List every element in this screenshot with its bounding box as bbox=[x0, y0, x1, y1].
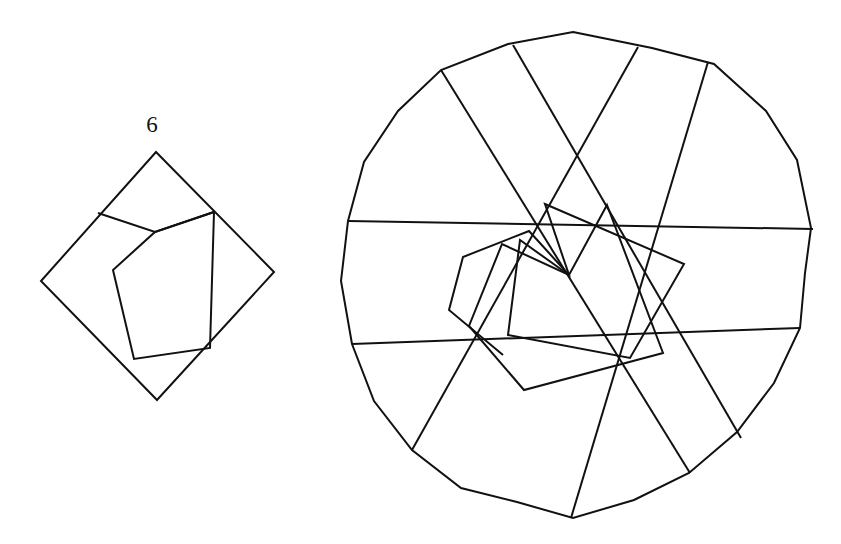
whirl-diagram-svg: 6 bbox=[0, 0, 841, 544]
large-spiral-chord-2 bbox=[352, 328, 800, 344]
small-inner-pentagon bbox=[113, 212, 214, 359]
large-spiral-chord-1 bbox=[348, 221, 813, 229]
small-whirl-figure bbox=[41, 152, 274, 400]
figure-canvas: 6 bbox=[0, 0, 841, 544]
small-outer-square bbox=[41, 152, 274, 400]
small-inner-whirl-chords bbox=[98, 212, 214, 232]
figure-number-label: 6 bbox=[146, 112, 158, 137]
large-outer-14gon bbox=[341, 32, 811, 518]
large-whirl-figure bbox=[341, 32, 813, 518]
